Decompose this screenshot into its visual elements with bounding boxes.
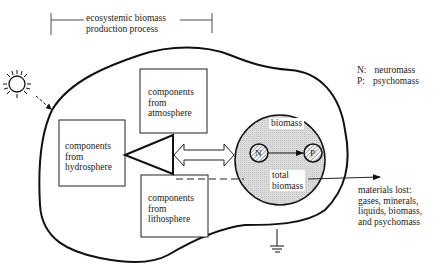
label-line: lithosphere [148,214,194,225]
atmosphere-label: components from atmosphere [148,87,194,119]
label-line: gases, minerals, [358,196,422,207]
label-line: biomass [272,181,303,192]
diagram-title: ecosystemic biomass production process [86,13,166,34]
hydrosphere-label: components from hydrosphere [65,141,112,173]
lithosphere-label: components from lithosphere [148,193,194,225]
total-biomass-label: total biomass [270,170,305,191]
materials-lost-label: materials lost: gases, minerals, liquids… [358,185,422,227]
label-line: hydrosphere [65,162,112,173]
label-line: and psychomass [358,217,422,228]
label-line: atmosphere [148,108,194,119]
double-arrow-icon [174,144,234,166]
legend: N: neuromass P: psychomass [357,65,419,86]
node-n-label: N [255,148,262,159]
legend-key: P: [357,76,365,87]
legend-value: neuromass [375,65,416,76]
label-line: components [148,87,194,98]
diagram-canvas [0,0,439,268]
legend-value: psychomass [373,76,419,87]
label-line: materials lost: [358,185,422,196]
label-line: liquids, biomass, [358,206,422,217]
label-line: from [65,152,112,163]
legend-item-p: P: psychomass [357,76,419,87]
sun-ray-arrow [36,96,51,109]
legend-item-n: N: neuromass [357,65,419,76]
sun-icon [3,70,31,98]
title-line-2: production process [86,24,166,35]
label-line: total [272,170,303,181]
label-line: from [148,98,194,109]
merge-triangle [125,135,173,174]
title-line-1: ecosystemic biomass [86,13,166,24]
legend-key: N: [357,65,367,76]
label-line: components [148,193,194,204]
ground-icon [270,229,284,252]
label-line: from [148,204,194,215]
node-p-label: P [310,148,315,159]
label-line: components [65,141,112,152]
biomass-label: biomass [269,118,304,129]
